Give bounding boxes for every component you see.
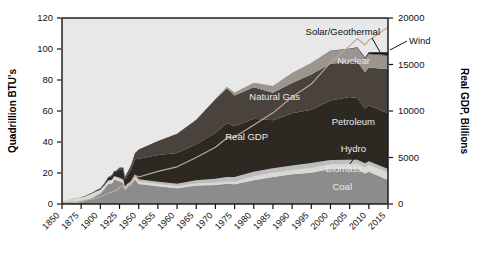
- label-nuclear: Nuclear: [337, 55, 370, 66]
- label-hydro: Hydro: [341, 143, 366, 154]
- right-tick-label: 20000: [398, 12, 424, 23]
- x-tick-label: 1980: [232, 210, 253, 231]
- x-tick-label: 1875: [59, 210, 80, 231]
- label-petroleum: Petroleum: [332, 116, 375, 127]
- right-tick-label: 0: [398, 198, 403, 209]
- right-axis-title: Real GDP, Billions: [459, 68, 470, 154]
- x-tick-label: 1925: [98, 210, 119, 231]
- left-tick-label: 120: [37, 12, 53, 23]
- right-tick-label: 10000: [398, 105, 424, 116]
- label-solar-geothermal: Solar/Geothermal: [306, 26, 380, 37]
- left-tick-label: 40: [42, 136, 53, 147]
- right-tick-label: 15000: [398, 59, 424, 70]
- left-tick-label: 0: [48, 198, 53, 209]
- x-tick-label: 1960: [155, 210, 176, 231]
- left-tick-label: 60: [42, 105, 53, 116]
- label-real-gdp: Real GDP: [225, 131, 268, 142]
- chart-svg: 020406080100120Quadrillion BTU's05000100…: [0, 0, 479, 253]
- x-tick-label: 1995: [289, 210, 310, 231]
- right-tick-label: 5000: [398, 152, 419, 163]
- x-tick-label: 1900: [79, 210, 100, 231]
- label-wind: Wind: [409, 35, 431, 46]
- x-tick-label: 1955: [136, 210, 157, 231]
- left-tick-label: 80: [42, 74, 53, 85]
- label-biomass: Biomass: [326, 163, 363, 174]
- x-tick-label: 1990: [270, 210, 291, 231]
- x-tick-label: 1985: [251, 210, 272, 231]
- x-tick-label: 2015: [366, 210, 387, 231]
- x-tick-label: 1950: [117, 210, 138, 231]
- label-natural-gas: Natural Gas: [249, 91, 300, 102]
- x-tick-label: 1970: [194, 210, 215, 231]
- left-tick-label: 100: [37, 43, 53, 54]
- x-tick-label: 1975: [213, 210, 234, 231]
- leader-wind: [390, 41, 407, 50]
- label-coal: Coal: [332, 181, 352, 192]
- x-tick-label: 2005: [328, 210, 349, 231]
- left-axis-title: Quadrillion BTU's: [7, 69, 18, 153]
- x-tick-label: 2000: [309, 210, 330, 231]
- x-tick-label: 1850: [40, 210, 61, 231]
- x-tick-label: 1965: [174, 210, 195, 231]
- energy-consumption-chart: 020406080100120Quadrillion BTU's05000100…: [0, 0, 479, 253]
- x-tick-label: 2010: [347, 210, 368, 231]
- left-tick-label: 20: [42, 167, 53, 178]
